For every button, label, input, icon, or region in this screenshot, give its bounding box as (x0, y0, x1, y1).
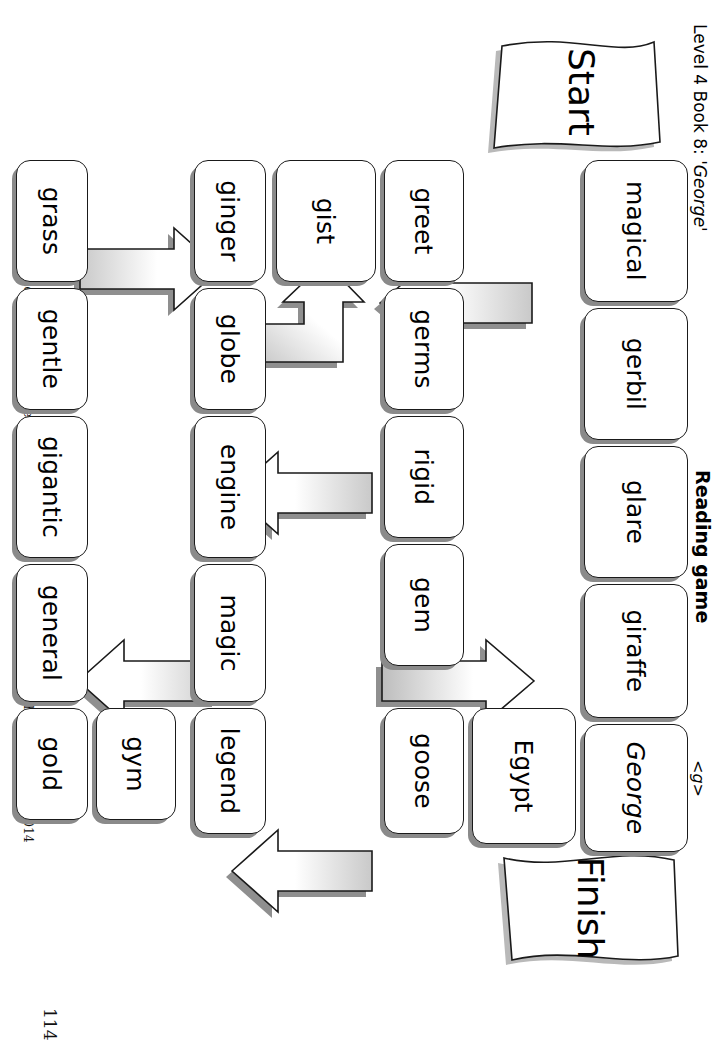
word-cell-grass[interactable]: grass (16, 160, 88, 282)
word-cell-goose[interactable]: goose (384, 708, 464, 834)
worksheet-page: Level 4 Book 8: 'George' Reading game <g… (0, 0, 728, 1058)
start-banner: Start (494, 28, 670, 156)
word-cell-greet[interactable]: greet (384, 160, 464, 282)
word-cell-general[interactable]: general (16, 564, 88, 702)
word-cell-giraffe[interactable]: giraffe (584, 584, 688, 718)
word-cell-gist[interactable]: gist (276, 160, 376, 282)
page-number: 114 (40, 1008, 60, 1040)
word-cell-ginger[interactable]: ginger (194, 160, 266, 282)
word-cell-glare[interactable]: glare (584, 446, 688, 578)
word-cell-magic[interactable]: magic (194, 564, 266, 702)
word-cell-gentle[interactable]: gentle (16, 288, 88, 410)
word-cell-george[interactable]: George (584, 724, 688, 852)
word-cell-rigid[interactable]: rigid (384, 416, 464, 538)
word-cell-gold[interactable]: gold (16, 708, 88, 820)
arrow-goose-to-legend (232, 830, 372, 912)
word-cell-engine[interactable]: engine (194, 416, 266, 558)
word-cell-gigantic[interactable]: gigantic (16, 416, 88, 558)
word-cell-gem[interactable]: gem (384, 544, 464, 666)
finish-banner: Finish (498, 844, 684, 972)
word-cell-globe[interactable]: globe (194, 288, 266, 410)
game-board: Start Finish (0, 0, 728, 1058)
word-cell-germs[interactable]: germs (384, 288, 464, 410)
word-cell-gerbil[interactable]: gerbil (584, 308, 688, 440)
word-cell-magical[interactable]: magical (584, 160, 688, 302)
word-cell-gym[interactable]: gym (96, 708, 176, 820)
word-cell-egypt[interactable]: Egypt (472, 708, 576, 844)
word-cell-legend[interactable]: legend (194, 708, 266, 834)
